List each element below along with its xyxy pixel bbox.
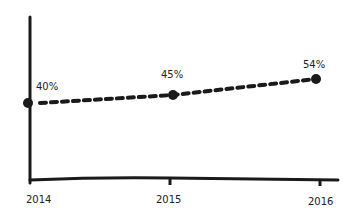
value-label-2016: 54% — [303, 59, 325, 70]
value-label-2014: 40% — [36, 81, 58, 92]
x-label-2014: 2014 — [26, 194, 51, 205]
data-point-2015 — [168, 90, 178, 100]
data-line — [40, 79, 316, 103]
value-label-2015: 45% — [161, 69, 183, 80]
data-point-2014 — [23, 98, 33, 108]
x-label-2015: 2015 — [156, 194, 181, 205]
line-chart: 40% 45% 54% 2014 2015 2016 — [0, 0, 356, 224]
x-label-2016: 2016 — [308, 196, 333, 207]
x-axis — [30, 178, 338, 180]
data-point-2016 — [311, 74, 321, 84]
